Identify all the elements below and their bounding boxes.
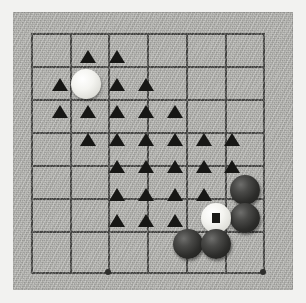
grid-line-horizontal-7 (31, 272, 263, 274)
triangle-marker (167, 188, 183, 201)
triangle-marker (167, 133, 183, 146)
triangle-marker (196, 160, 212, 173)
triangle-marker (167, 105, 183, 118)
go-board[interactable] (13, 12, 293, 290)
triangle-marker (52, 105, 68, 118)
grid-line-vertical-3 (147, 33, 149, 272)
triangle-marker (52, 78, 68, 91)
triangle-marker (109, 188, 125, 201)
black-stone[interactable] (230, 203, 260, 233)
triangle-marker (167, 214, 183, 227)
triangle-marker (109, 160, 125, 173)
triangle-marker (109, 78, 125, 91)
triangle-marker (138, 105, 154, 118)
white-stone[interactable] (71, 69, 101, 99)
star-point-0 (105, 269, 111, 275)
triangle-marker (109, 50, 125, 63)
triangle-marker (109, 105, 125, 118)
triangle-marker (224, 133, 240, 146)
triangle-marker (109, 133, 125, 146)
triangle-marker (138, 188, 154, 201)
black-stone[interactable] (173, 229, 203, 259)
triangle-marker (80, 133, 96, 146)
triangle-marker (138, 78, 154, 91)
triangle-marker (80, 50, 96, 63)
triangle-marker (196, 188, 212, 201)
black-stone[interactable] (201, 229, 231, 259)
triangle-marker (138, 214, 154, 227)
grid-line-vertical-2 (108, 33, 110, 272)
grid-line-vertical-6 (263, 33, 265, 272)
triangle-marker (138, 160, 154, 173)
go-diagram (0, 0, 306, 303)
triangle-marker (196, 133, 212, 146)
black-stone[interactable] (230, 175, 260, 205)
triangle-marker (80, 105, 96, 118)
triangle-marker (224, 160, 240, 173)
grid-line-vertical-1 (70, 33, 72, 272)
triangle-marker (138, 133, 154, 146)
triangle-marker (167, 160, 183, 173)
stone-square-mark (212, 213, 220, 223)
star-point-1 (260, 269, 266, 275)
triangle-marker (109, 214, 125, 227)
board-texture-highlight (13, 12, 293, 290)
board-texture-overlay (13, 12, 293, 290)
grid-line-vertical-0 (31, 33, 33, 272)
